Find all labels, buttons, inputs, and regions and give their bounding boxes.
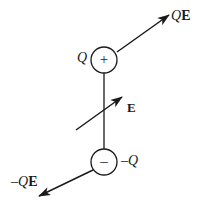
force-bottom-label-minus: –	[11, 174, 18, 189]
negative-charge-label: –Q	[121, 154, 138, 168]
force-vector-bottom-arrow	[39, 170, 93, 196]
force-bottom-label: –QE	[11, 175, 37, 189]
negative-charge-label-minus: –	[121, 153, 128, 168]
force-top-label: QE	[171, 9, 190, 23]
force-vector-top-arrow	[117, 15, 169, 52]
field-vector-arrow	[76, 97, 122, 130]
dipole-diagram-svg	[0, 0, 203, 202]
force-top-label-q: Q	[171, 8, 181, 23]
force-top-label-e: E	[181, 8, 190, 23]
force-bottom-label-q: Q	[18, 174, 28, 189]
negative-sign-glyph: –	[91, 154, 117, 169]
dipole-figure: + – Q –Q QE –QE E	[0, 0, 203, 202]
force-bottom-label-e: E	[28, 174, 37, 189]
field-vector-label: E	[127, 101, 136, 114]
positive-sign-glyph: +	[91, 52, 117, 67]
positive-charge-label: Q	[77, 51, 87, 65]
negative-charge-label-q: Q	[128, 153, 138, 168]
